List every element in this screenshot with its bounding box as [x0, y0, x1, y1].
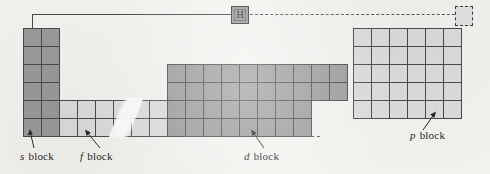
p-block-label-italic: p — [410, 129, 417, 141]
d-block-label-italic: d — [244, 150, 251, 162]
d-block-label-text: block — [251, 150, 279, 162]
s-block-label-text: block — [25, 150, 53, 162]
f-block-label: f block — [80, 150, 113, 162]
s-block-leader — [0, 0, 490, 174]
d-block-label: d block — [244, 150, 279, 162]
p-block-label-text: block — [417, 129, 445, 141]
p-block-label: p block — [410, 129, 445, 141]
f-block-label-text: block — [84, 150, 112, 162]
s-block-label: s block — [20, 150, 54, 162]
periodic-table-blocks-figure: H — [0, 0, 490, 174]
